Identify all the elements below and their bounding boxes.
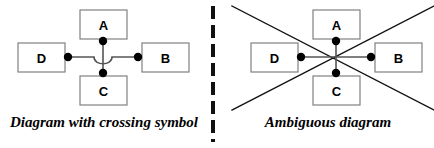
node-c[interactable]: C — [313, 69, 360, 105]
node-label-d: D — [270, 51, 279, 66]
node-b[interactable]: B — [134, 43, 189, 72]
connection-dot-a — [99, 37, 107, 45]
figure-root: ABCD Diagram with crossing symbol ABCD A… — [0, 0, 434, 148]
node-label-c: C — [332, 84, 342, 99]
node-label-b: B — [394, 51, 403, 66]
panel-crossing-symbol: ABCD Diagram with crossing symbol — [0, 0, 208, 148]
node-d[interactable]: D — [18, 43, 72, 72]
node-label-d: D — [37, 51, 46, 66]
node-a[interactable]: A — [313, 10, 360, 45]
connection-dot-b — [134, 53, 142, 61]
connection-dot-d — [64, 53, 72, 61]
connection-dot-b — [367, 53, 375, 61]
node-d[interactable]: D — [251, 43, 305, 72]
connection-dot-a — [332, 37, 340, 45]
crossing-symbol-canvas: ABCD — [0, 0, 208, 112]
diagram-ambiguous: ABCD — [222, 0, 434, 112]
connection-dot-d — [297, 53, 305, 61]
caption-ambiguous: Ambiguous diagram — [222, 112, 434, 132]
caption-crossing-symbol: Diagram with crossing symbol — [0, 112, 208, 132]
panel-ambiguous: ABCD Ambiguous diagram — [222, 0, 434, 148]
node-c[interactable]: C — [80, 69, 127, 105]
node-label-a: A — [99, 18, 109, 33]
node-label-b: B — [161, 51, 170, 66]
node-b[interactable]: B — [367, 43, 422, 72]
connection-dot-c — [99, 69, 107, 77]
diagram-crossing-symbol: ABCD — [0, 0, 208, 112]
connection-dot-c — [332, 69, 340, 77]
node-label-a: A — [332, 18, 342, 33]
node-label-c: C — [99, 84, 109, 99]
ambiguous-canvas: ABCD — [222, 0, 434, 112]
node-a[interactable]: A — [80, 10, 127, 45]
divider-dashed-line — [211, 6, 215, 142]
panel-divider — [211, 6, 215, 142]
